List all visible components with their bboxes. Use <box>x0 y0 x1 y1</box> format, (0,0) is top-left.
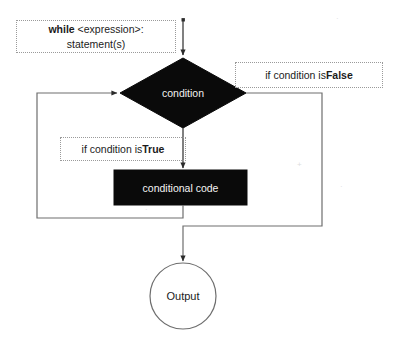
while-note-line-2: statement(s) <box>67 37 125 51</box>
while-expression: <expression>: <box>75 23 144 35</box>
while-statement-note: while <expression>: statement(s) <box>16 20 176 53</box>
while-keyword: while <box>48 23 74 35</box>
output-circle <box>150 263 216 329</box>
scan-speck: · <box>336 14 339 23</box>
false-branch-note: if condition is False <box>235 62 383 88</box>
true-keyword: True <box>142 142 164 156</box>
scan-speck: · <box>145 205 148 214</box>
true-branch-note: if condition is True <box>60 137 186 161</box>
false-note-prefix: if condition is <box>265 68 326 82</box>
while-note-line-1: while <expression>: <box>48 22 143 36</box>
false-keyword: False <box>326 68 353 82</box>
condition-diamond <box>120 58 246 128</box>
scan-speck: · <box>340 182 343 191</box>
flowchart-canvas: while <expression>: statement(s) if cond… <box>0 0 412 348</box>
scan-speck: + <box>297 160 302 169</box>
conditional-code-box <box>114 170 247 205</box>
true-note-prefix: if condition is <box>82 142 143 156</box>
